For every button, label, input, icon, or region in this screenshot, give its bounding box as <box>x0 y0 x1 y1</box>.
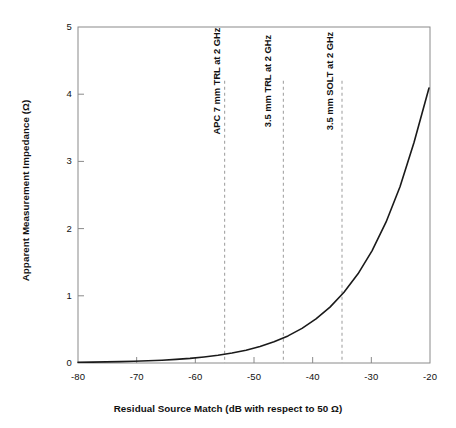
x-tick-label: -50 <box>240 371 268 382</box>
x-tick-label: -30 <box>357 371 385 382</box>
y-tick-label: 2 <box>60 223 72 234</box>
y-tick-label: 0 <box>60 357 72 368</box>
x-tick-label: -80 <box>64 371 92 382</box>
x-tick-label: -70 <box>123 371 151 382</box>
y-tick-label: 4 <box>60 88 72 99</box>
x-axis-title: Residual Source Match (dB with respect t… <box>0 403 456 414</box>
y-tick-label: 5 <box>60 21 72 32</box>
y-tick-label: 1 <box>60 290 72 301</box>
annotation-label-container: 3.5 mm SOLT at 2 GHz <box>281 74 411 88</box>
data-curve <box>78 88 429 362</box>
x-tick-label: -60 <box>181 371 209 382</box>
y-axis-title: Apparent Measurement Impedance (Ω) <box>21 99 32 281</box>
y-tick-label: 3 <box>60 155 72 166</box>
annotation-label: 3.5 mm TRL at 2 GHz <box>263 35 273 127</box>
chart-figure: Apparent Measurement Impedance (Ω) 01234… <box>0 0 456 428</box>
x-tick-label: -40 <box>299 371 327 382</box>
annotation-label: 3.5 mm SOLT at 2 GHz <box>325 31 335 130</box>
x-tick-label: -20 <box>416 371 444 382</box>
annotation-label: APC 7 mm TRL at 2 GHz <box>212 27 222 134</box>
y-axis-title-container: Apparent Measurement Impedance (Ω) <box>16 0 36 380</box>
